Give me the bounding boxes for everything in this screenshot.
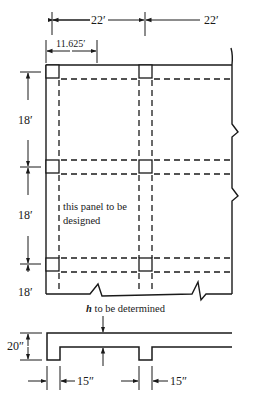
column (139, 65, 152, 78)
column (46, 160, 59, 173)
left-dimension-lines (20, 72, 41, 272)
column (46, 258, 59, 271)
column (139, 160, 152, 173)
column (46, 65, 59, 78)
panel-label-line2: designed (63, 215, 101, 226)
left-dimension-middle: 18′ (18, 208, 33, 222)
sub-dimension-label: 11.625′ (56, 38, 85, 49)
floor-plan-diagram: 22′ 22′ 11.625′ (0, 0, 254, 403)
beam-section (47, 333, 232, 360)
section-caption: h to be determined (86, 303, 166, 314)
section-depth-label: 20″ (7, 339, 24, 353)
section-caption-text: to be determined (92, 303, 166, 314)
columns (46, 65, 152, 271)
top-dimension-right: 22′ (204, 13, 219, 27)
top-dimension-left: 22′ (91, 13, 106, 27)
column (139, 258, 152, 271)
left-dimension-top: 18′ (18, 113, 33, 127)
section-dimension-lines (20, 316, 168, 390)
left-dimension-bottom: 18′ (18, 285, 33, 299)
web-width-right: 15″ (170, 374, 187, 388)
web-width-left: 15″ (77, 374, 94, 388)
panel-label-line1: this panel to be (63, 201, 127, 212)
